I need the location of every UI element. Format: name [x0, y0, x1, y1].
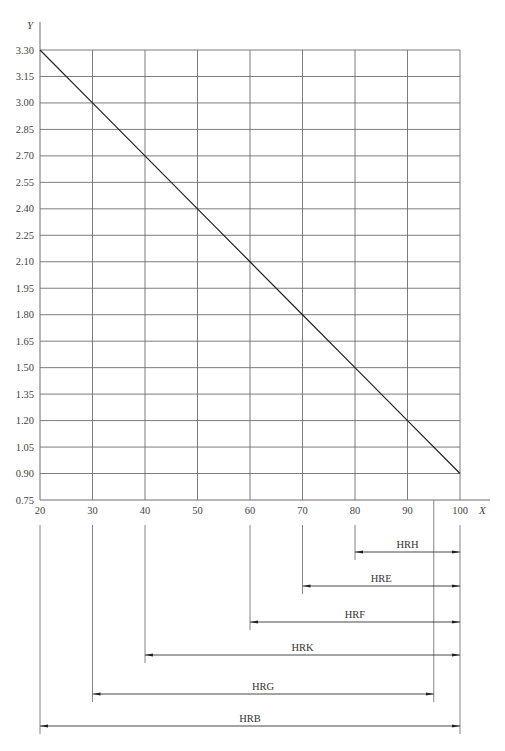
x-tick-label: 40 — [140, 505, 151, 516]
x-tick-label: 90 — [402, 505, 413, 516]
y-tick-label: 0.90 — [16, 468, 34, 479]
y-tick-label: 2.25 — [16, 230, 34, 241]
y-tick-label: 0.75 — [16, 495, 34, 506]
range-label: HRE — [371, 573, 392, 584]
y-tick-label: 1.35 — [16, 389, 34, 400]
scale-range-hrf: HRF — [250, 609, 460, 622]
x-tick-label: 60 — [245, 505, 256, 516]
y-axis-letter: Y — [27, 19, 35, 31]
x-tick-label: 80 — [350, 505, 361, 516]
x-tick-label: 20 — [35, 505, 46, 516]
y-tick-label: 1.50 — [16, 362, 34, 373]
hardness-conversion-chart: 0.750.901.051.201.351.501.651.801.952.10… — [0, 0, 505, 751]
y-tick-label: 1.80 — [16, 309, 34, 320]
y-tick-label: 1.95 — [16, 283, 34, 294]
y-tick-label: 3.30 — [16, 45, 34, 56]
axes — [40, 22, 490, 500]
scale-range-hrh: HRH — [355, 539, 460, 552]
scale-range-hrg: HRG — [93, 681, 434, 694]
y-tick-label: 2.55 — [16, 177, 34, 188]
y-tick-label: 2.10 — [16, 256, 34, 267]
range-label: HRB — [239, 713, 261, 724]
range-label: HRF — [345, 609, 366, 620]
range-label: HRK — [291, 642, 314, 653]
y-tick-label: 2.70 — [16, 150, 34, 161]
x-tick-label: 30 — [87, 505, 98, 516]
y-tick-label: 3.00 — [16, 97, 34, 108]
y-tick-labels: 0.750.901.051.201.351.501.651.801.952.10… — [16, 45, 34, 506]
y-tick-label: 1.05 — [16, 442, 34, 453]
x-axis-letter: X — [478, 504, 487, 516]
y-tick-label: 3.15 — [16, 71, 34, 82]
grid-lines — [40, 50, 460, 500]
y-tick-label: 2.40 — [16, 203, 34, 214]
range-label: HRH — [396, 539, 419, 550]
scale-range-hrb: HRB — [40, 713, 460, 726]
scale-range-hrk: HRK — [145, 642, 460, 655]
scale-range-bars: HRHHREHRFHRKHRGHRB — [40, 500, 460, 734]
x-tick-label: 70 — [297, 505, 308, 516]
x-tick-label: 50 — [192, 505, 203, 516]
y-tick-label: 2.85 — [16, 124, 34, 135]
x-tick-labels: 2030405060708090100 — [35, 505, 468, 516]
range-label: HRG — [252, 681, 275, 692]
x-tick-label: 100 — [452, 505, 468, 516]
y-tick-label: 1.20 — [16, 415, 34, 426]
y-tick-label: 1.65 — [16, 336, 34, 347]
scale-range-hre: HRE — [303, 573, 461, 586]
